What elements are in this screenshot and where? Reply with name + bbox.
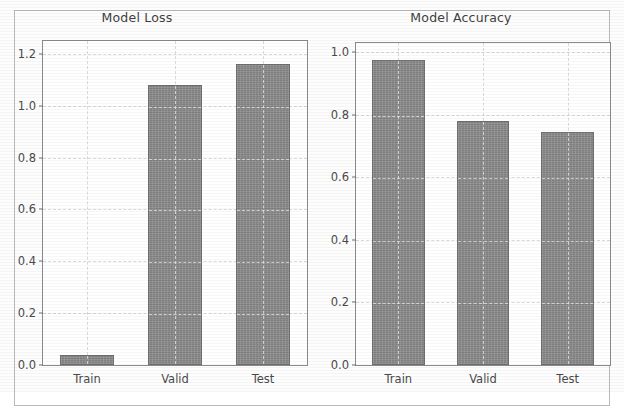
bar-valid <box>457 121 509 365</box>
bar-gridline-vertical <box>568 133 569 364</box>
bar-train <box>372 60 424 365</box>
y-axis-tick-label: 0.2 <box>18 306 36 320</box>
y-axis-tick-label: 0.0 <box>331 358 349 372</box>
bar-gridline-horizontal <box>458 178 508 179</box>
y-axis-tick-label: 0.4 <box>18 254 36 268</box>
y-axis-tick-mark <box>39 209 43 210</box>
y-axis-tick-label: 0.0 <box>18 358 36 372</box>
gridline-vertical <box>87 41 88 365</box>
y-axis-tick-mark <box>352 52 356 53</box>
y-axis-tick-label: 0.4 <box>331 233 349 247</box>
bar-gridline-horizontal <box>237 262 290 263</box>
x-axis-tick-label: Valid <box>161 372 189 386</box>
plot-area-model-loss: 0.00.20.40.60.81.01.2TrainValidTest <box>42 40 308 366</box>
bar-train <box>60 355 115 365</box>
x-axis-tick-label: Test <box>252 372 275 386</box>
bar-gridline-horizontal <box>458 303 508 304</box>
bar-gridline-horizontal <box>237 314 290 315</box>
bar-gridline-horizontal <box>149 210 202 211</box>
y-axis-tick-mark <box>39 313 43 314</box>
y-axis-tick-label: 0.8 <box>331 108 349 122</box>
plot-area-model-accuracy: 0.00.20.40.60.81.0TrainValidTest <box>355 42 611 366</box>
bar-gridline-vertical <box>87 356 88 364</box>
bar-gridline-vertical <box>175 86 176 364</box>
chart-title-model-loss: Model Loss <box>0 10 296 25</box>
y-axis-tick-mark <box>39 365 43 366</box>
bar-gridline-horizontal <box>237 210 290 211</box>
y-axis-tick-mark <box>352 365 356 366</box>
x-axis-tick-label: Test <box>556 372 579 386</box>
bar-gridline-horizontal <box>237 159 290 160</box>
y-axis-tick-mark <box>352 239 356 240</box>
bar-gridline-horizontal <box>149 314 202 315</box>
bar-gridline-horizontal <box>149 159 202 160</box>
bar-gridline-vertical <box>263 65 264 364</box>
bar-gridline-horizontal <box>149 107 202 108</box>
bar-test <box>541 132 593 365</box>
y-axis-tick-mark <box>39 53 43 54</box>
x-axis-tick-label: Train <box>73 372 101 386</box>
bar-gridline-horizontal <box>542 303 592 304</box>
x-axis-tick-label: Train <box>385 372 413 386</box>
bar-gridline-horizontal <box>373 116 423 117</box>
y-axis-tick-label: 0.6 <box>331 170 349 184</box>
bar-gridline-horizontal <box>373 178 423 179</box>
chart-title-model-accuracy: Model Accuracy <box>308 10 614 25</box>
bar-gridline-horizontal <box>237 107 290 108</box>
y-axis-tick-mark <box>352 114 356 115</box>
y-axis-tick-label: 0.8 <box>18 151 36 165</box>
y-axis-tick-label: 1.2 <box>18 47 36 61</box>
bar-gridline-horizontal <box>373 303 423 304</box>
bar-gridline-horizontal <box>542 178 592 179</box>
bar-gridline-vertical <box>483 122 484 364</box>
y-axis-tick-label: 1.0 <box>18 99 36 113</box>
bar-gridline-horizontal <box>149 262 202 263</box>
y-axis-tick-label: 1.0 <box>331 45 349 59</box>
y-axis-tick-mark <box>39 157 43 158</box>
bar-gridline-horizontal <box>542 241 592 242</box>
y-axis-tick-mark <box>39 261 43 262</box>
chart-panel-model-loss: Model Loss 0.00.20.40.60.81.01.2TrainVal… <box>0 0 318 392</box>
bar-gridline-horizontal <box>458 241 508 242</box>
plot-inner-model-loss <box>43 41 307 365</box>
bar-test <box>236 64 291 365</box>
y-axis-tick-mark <box>352 302 356 303</box>
bar-valid <box>148 85 203 365</box>
y-axis-tick-label: 0.6 <box>18 202 36 216</box>
chart-panel-model-accuracy: Model Accuracy 0.00.20.40.60.81.0TrainVa… <box>318 0 624 392</box>
y-axis-tick-label: 0.2 <box>331 295 349 309</box>
y-axis-tick-mark <box>352 177 356 178</box>
y-axis-tick-mark <box>39 105 43 106</box>
plot-inner-model-accuracy <box>356 43 610 365</box>
x-axis-tick-label: Valid <box>469 372 497 386</box>
bar-gridline-horizontal <box>373 241 423 242</box>
bar-gridline-vertical <box>398 61 399 364</box>
